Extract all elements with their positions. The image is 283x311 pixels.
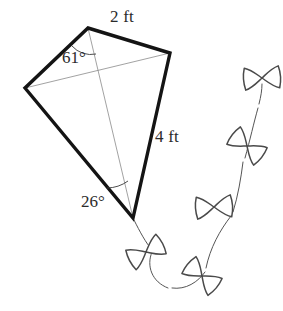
label-angle-bottom: 26° [81,192,105,211]
tail-bow-1 [125,234,168,271]
bow-tie-icon [195,195,233,220]
tail-string-segment-4 [206,216,231,268]
bow-tie-icon [125,234,168,271]
tail-bow-2 [181,256,223,297]
label-side-bottom-right: 4 ft [155,127,179,146]
tail-bow-4 [226,126,269,166]
tail-string-segment-7 [259,84,262,104]
kite-diagram-canvas: 2 ft 4 ft 61° 26° [0,0,283,311]
label-side-top-right: 2 ft [110,7,134,26]
label-angle-top: 61° [62,48,86,67]
bow-tie-icon [181,256,223,297]
kite-body-fill [25,28,170,218]
bow-tie-icon [226,126,269,166]
tail-bow-3 [195,195,233,220]
kite-figure-container: 2 ft 4 ft 61° 26° [0,0,283,311]
tail-string-segment-5 [233,162,243,212]
tail-string-segment-2 [150,252,168,288]
